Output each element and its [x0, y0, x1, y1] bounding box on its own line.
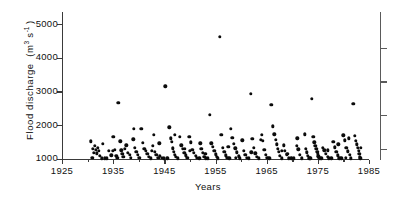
data-point [151, 144, 154, 147]
x-tick-minor-1930 [88, 160, 89, 163]
data-point [275, 143, 278, 146]
data-point [297, 147, 300, 150]
x-axis-title: Years [0, 181, 416, 192]
data-point [232, 142, 235, 145]
data-point [353, 134, 356, 137]
x-tick-1935 [113, 160, 114, 164]
data-point [199, 147, 202, 150]
data-point [168, 126, 171, 129]
data-point [270, 103, 273, 106]
data-point [351, 102, 354, 105]
x-tick-1955 [216, 160, 217, 164]
data-point [262, 148, 265, 151]
x-tick-minor-1980 [343, 160, 344, 163]
data-point [229, 127, 232, 130]
data-point [251, 137, 254, 140]
data-point [326, 148, 329, 151]
data-point [282, 143, 285, 146]
data-point [333, 145, 336, 148]
data-point [170, 140, 173, 143]
data-point [250, 151, 253, 154]
x-tick-1925 [62, 160, 63, 164]
data-point [111, 135, 114, 138]
data-point [260, 133, 263, 136]
x-tick-1985 [369, 160, 370, 164]
data-point [240, 139, 243, 142]
data-point [164, 85, 167, 88]
data-point [97, 149, 100, 152]
data-point [219, 133, 222, 136]
y-tick-label-4000: 4000 [36, 51, 58, 62]
y-axis-title: Flood discharge (m3 s-1 ) [23, 0, 35, 160]
x-tick-label-1945: 1945 [153, 165, 175, 176]
data-point [198, 142, 201, 145]
data-point [280, 149, 283, 152]
data-point [119, 140, 122, 143]
data-point [285, 152, 288, 155]
y-tick-label-1000: 1000 [36, 152, 58, 163]
data-point [101, 142, 104, 145]
data-point [152, 133, 155, 136]
data-point [359, 146, 362, 149]
data-point [252, 146, 255, 149]
data-point [235, 151, 238, 154]
x-tick-label-1925: 1925 [51, 165, 73, 176]
data-point [178, 135, 181, 138]
x-tick-1945 [164, 160, 165, 164]
data-point [312, 135, 315, 138]
data-point [234, 146, 237, 149]
x-tick-minor-1940 [139, 160, 140, 163]
data-point [140, 127, 143, 130]
data-point [208, 113, 211, 116]
plot-area: 10002000300040005000 1925193519451955196… [62, 12, 382, 160]
x-tick-label-1965: 1965 [255, 165, 277, 176]
data-point [173, 133, 176, 136]
data-point [183, 147, 186, 150]
data-point [125, 143, 128, 146]
right-axis-line [380, 12, 381, 160]
x-tick-minor-1960 [241, 160, 242, 163]
x-tick-minor-1970 [292, 160, 293, 163]
data-point [337, 143, 340, 146]
data-point [242, 149, 245, 152]
data-point [310, 97, 313, 100]
y-tick-label-5000: 5000 [36, 18, 58, 29]
data-point [296, 137, 299, 140]
right-tick [381, 81, 387, 82]
x-tick-label-1985: 1985 [358, 165, 380, 176]
data-point [133, 146, 136, 149]
data-point [131, 137, 134, 140]
right-tick [381, 115, 387, 116]
data-point [141, 141, 144, 144]
data-point [271, 125, 274, 128]
x-tick-label-1975: 1975 [307, 165, 329, 176]
data-point [303, 133, 306, 136]
data-point [111, 149, 114, 152]
right-tick [381, 48, 387, 49]
x-tick-1975 [318, 160, 319, 164]
data-point [331, 140, 334, 143]
data-point [109, 154, 112, 157]
data-point [342, 134, 345, 137]
right-tick [381, 149, 387, 150]
data-point [204, 152, 207, 155]
x-tick-minor-1950 [190, 160, 191, 163]
data-point [188, 149, 191, 152]
data-point [158, 141, 161, 144]
data-point [218, 35, 221, 38]
data-point [231, 136, 234, 139]
data-point [221, 146, 224, 149]
data-point [249, 92, 252, 95]
y-tick-label-3000: 3000 [36, 85, 58, 96]
data-point [132, 127, 135, 130]
data-point [273, 133, 276, 136]
flood-discharge-scatter-chart: Flood discharge (m3 s-1 ) 10002000300040… [0, 0, 416, 199]
y-axis-line [62, 12, 63, 160]
data-point [261, 139, 264, 142]
data-point [117, 101, 120, 104]
data-point [188, 135, 191, 138]
data-point [227, 145, 230, 148]
data-point [123, 147, 126, 150]
y-tick-label-2000: 2000 [36, 119, 58, 130]
x-tick-label-1955: 1955 [204, 165, 226, 176]
